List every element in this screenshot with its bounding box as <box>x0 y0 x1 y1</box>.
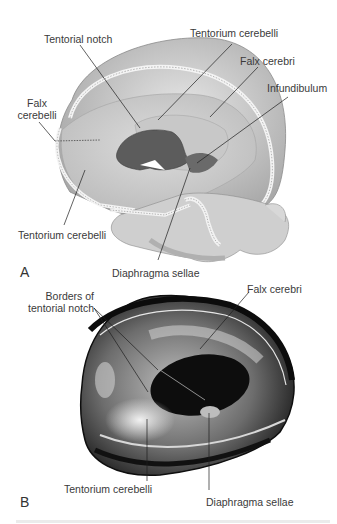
label-tentorium-cerebelli-bottom: Tentorium cerebelli <box>18 229 106 241</box>
label-falx-cerebelli-line2: cerebelli <box>17 109 57 121</box>
label-diaphragma-sellae-a: Diaphragma sellae <box>112 267 200 279</box>
label-tentorial-notch: Tentorial notch <box>44 33 112 45</box>
panel-a-letter: A <box>20 264 29 280</box>
label-falx-cerebri-a: Falx cerebri <box>240 55 295 67</box>
label-infundibulum: Infundibulum <box>267 82 327 94</box>
label-diaphragma-sellae-b: Diaphragma sellae <box>206 496 294 508</box>
label-borders-line2: tentorial notch <box>22 302 94 314</box>
label-tentorium-cerebelli-b: Tentorium cerebelli <box>64 483 152 495</box>
label-falx-cerebelli-line1: Falx <box>17 97 57 109</box>
label-falx-cerebelli: Falx cerebelli <box>17 97 57 121</box>
panel-b-letter: B <box>20 494 29 510</box>
label-borders-tentorial-notch: Borders of tentorial notch <box>22 290 94 314</box>
label-tentorium-cerebelli-top: Tentorium cerebelli <box>190 27 278 39</box>
label-borders-line1: Borders of <box>22 290 94 302</box>
bottom-divider <box>16 520 330 523</box>
label-falx-cerebri-b: Falx cerebri <box>247 283 302 295</box>
